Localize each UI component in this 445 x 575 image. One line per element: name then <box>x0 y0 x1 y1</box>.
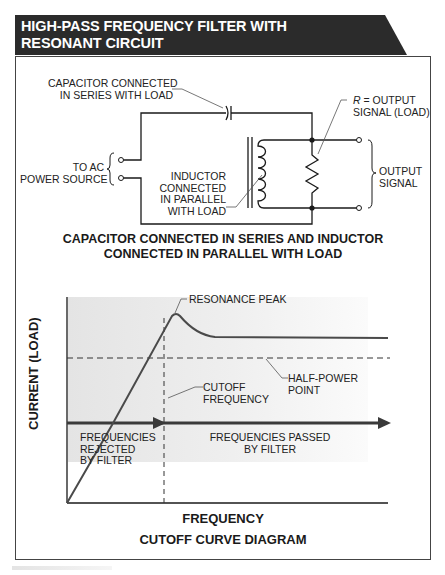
source-terminal-top <box>119 158 124 163</box>
output-label-line-1: OUTPUT <box>379 166 422 178</box>
x-axis-label: FREQUENCY <box>15 512 431 527</box>
inductor-label-line-3: IN PARALLEL <box>150 194 226 206</box>
source-label-line-2: POWER SOURCE <box>20 174 104 186</box>
resistor-label-line-2: SIGNAL (LOAD) <box>353 107 430 119</box>
output-brace <box>368 140 376 208</box>
resistor-zigzag <box>306 140 318 208</box>
inductor-coil <box>258 140 266 208</box>
rejected-frequencies-label: FREQUENCIES REJECTED BY FILTER <box>80 432 156 467</box>
half-power-label-line-1: HALF-POWER <box>288 373 358 385</box>
resistor-label-text: = OUTPUT <box>361 94 416 106</box>
circuit-caption: CAPACITOR CONNECTED IN SERIES AND INDUCT… <box>15 232 431 261</box>
passed-label-line-2: BY FILTER <box>200 444 340 456</box>
capacitor-leader <box>172 89 223 108</box>
passed-label-line-1: FREQUENCIES PASSED <box>200 432 340 444</box>
rejected-label-line-3: BY FILTER <box>80 455 156 467</box>
rejected-label-line-1: FREQUENCIES <box>80 432 156 444</box>
inductor-label-line-1: INDUCTOR <box>150 171 226 183</box>
capacitor-curved-plate <box>226 106 228 120</box>
resistor-symbol: R <box>353 94 361 106</box>
circuit-caption-line-2: CONNECTED IN PARALLEL WITH LOAD <box>15 247 431 262</box>
source-brace <box>107 153 114 185</box>
source-label-line-1: TO AC <box>20 162 104 174</box>
cutoff-frequency-label: CUTOFF FREQUENCY <box>203 382 269 405</box>
passed-arrow-head <box>378 417 391 429</box>
top-wire <box>123 113 226 160</box>
output-terminal-bottom <box>357 206 362 211</box>
junction-dot-bottom <box>309 205 314 210</box>
inductor-leader <box>226 175 262 207</box>
cutoff-label-line-2: FREQUENCY <box>203 394 269 406</box>
resistor-label: R = OUTPUT SIGNAL (LOAD) <box>353 95 430 118</box>
capacitor-label: CAPACITOR CONNECTED IN SERIES WITH LOAD <box>48 78 173 101</box>
passed-frequencies-label: FREQUENCIES PASSED BY FILTER <box>200 432 340 455</box>
circuit-caption-line-1: CAPACITOR CONNECTED IN SERIES AND INDUCT… <box>15 232 431 247</box>
capacitor-label-line-2: IN SERIES WITH LOAD <box>48 90 173 102</box>
half-power-label: HALF-POWER POINT <box>288 373 358 396</box>
inductor-label: INDUCTOR CONNECTED IN PARALLEL WITH LOAD <box>150 171 226 217</box>
source-terminal-bottom <box>119 176 124 181</box>
resistor-leader <box>318 100 347 154</box>
source-label: TO AC POWER SOURCE <box>20 162 104 185</box>
output-label-line-2: SIGNAL <box>379 178 422 190</box>
output-terminal-top <box>357 138 362 143</box>
inductor-label-line-4: WITH LOAD <box>150 206 226 218</box>
resonance-peak-label: RESONANCE PEAK <box>189 294 286 306</box>
chart-title: CUTOFF CURVE DIAGRAM <box>15 533 431 548</box>
resistor-label-line-1: R = OUTPUT <box>353 95 430 107</box>
capacitor-label-line-1: CAPACITOR CONNECTED <box>48 78 173 90</box>
half-power-label-line-2: POINT <box>288 385 358 397</box>
output-signal-label: OUTPUT SIGNAL <box>379 166 422 189</box>
junction-dot-top <box>309 137 314 142</box>
cutoff-label-line-1: CUTOFF <box>203 382 269 394</box>
figure-caption-cutoff <box>12 566 112 570</box>
y-axis-label: CURRENT (LOAD) <box>26 317 41 430</box>
